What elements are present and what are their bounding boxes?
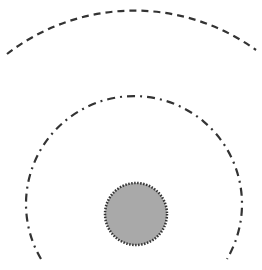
signal-diagram xyxy=(0,0,262,270)
core-circle xyxy=(105,183,167,245)
outer-dashed-arc xyxy=(7,11,256,54)
